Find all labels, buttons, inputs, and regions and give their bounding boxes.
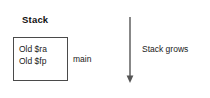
arrow-down-icon xyxy=(122,14,138,86)
stack-title: Stack xyxy=(22,14,48,25)
stack-slot-old-fp: Old $fp xyxy=(19,55,64,67)
stack-slot-old-ra: Old $ra xyxy=(19,43,64,55)
stack-frame-label-main: main xyxy=(73,54,91,65)
stack-grows-arrow xyxy=(122,14,138,86)
stack-diagram: Stack Old $ra Old $fp main Stack grows xyxy=(0,0,210,98)
stack-grows-label: Stack grows xyxy=(142,44,188,55)
stack-frame-rows: Old $ra Old $fp xyxy=(19,43,64,67)
stack-frame-box: Old $ra Old $fp xyxy=(13,37,68,81)
